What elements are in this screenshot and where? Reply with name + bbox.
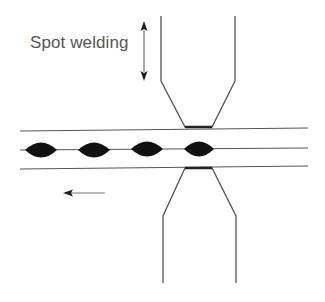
sheet-interface xyxy=(20,148,308,150)
vertical-double-arrow-icon xyxy=(141,21,148,81)
top-sheet-edge xyxy=(20,128,308,131)
bottom-sheet-edge xyxy=(20,166,308,169)
weld-nugget xyxy=(184,142,214,157)
metal-sheets xyxy=(20,128,308,169)
weld-nugget xyxy=(78,143,110,158)
upper-electrode xyxy=(161,16,235,127)
weld-nugget xyxy=(131,142,163,157)
spot-welding-diagram xyxy=(0,0,325,302)
weld-nugget xyxy=(25,143,57,158)
lower-electrode xyxy=(163,168,236,283)
left-arrow-icon xyxy=(63,190,105,197)
